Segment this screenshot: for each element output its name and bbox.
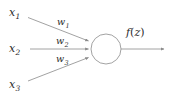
neuron-node-circle [91,34,121,64]
input-label-x3-subscript: 3 [16,84,21,93]
input-label-x2-subscript: 2 [16,48,21,57]
input-label-x3: x3 [9,79,20,90]
weight-label-w1-subscript: 1 [65,22,69,30]
weight-label-w2: w2 [56,36,68,46]
output-label-fz: f(z) [126,27,144,38]
output-label-paren-open: ( [130,26,134,39]
weight-label-w3-subscript: 3 [64,59,68,67]
weight-label-w2-subscript: 2 [64,41,68,49]
output-label-paren-close: ) [140,26,144,39]
diagram-canvas [0,0,170,98]
input-label-x1: x1 [9,7,20,18]
weight-label-w1: w1 [57,17,69,27]
input-label-x1-subscript: 1 [16,12,21,21]
neuron-diagram: x1 x2 x3 w1 w2 w3 f(z) [0,0,170,98]
weight-label-w3: w3 [56,54,68,64]
input-label-x2: x2 [9,43,20,54]
